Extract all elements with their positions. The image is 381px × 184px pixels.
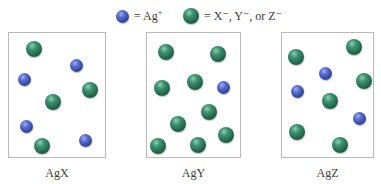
green-sphere-icon (201, 104, 217, 120)
green-sphere-icon (332, 137, 348, 153)
green-sphere-icon (158, 44, 174, 60)
green-sphere-icon (218, 127, 234, 143)
green-sphere-icon (34, 138, 50, 154)
green-sphere-icon (356, 73, 372, 89)
green-sphere-icon (26, 41, 42, 57)
blue-sphere-icon (353, 112, 366, 125)
legend: = Ag+ = X⁻, Y⁻, or Z⁻ (0, 6, 381, 26)
green-sphere-icon (288, 49, 304, 65)
green-sphere-icon (82, 82, 98, 98)
green-sphere-icon (183, 8, 199, 24)
legend-ag-text: = Ag+ (134, 8, 162, 24)
panel-agx-label: AgX (8, 166, 106, 181)
blue-sphere-icon (20, 120, 33, 133)
panel-agy-label: AgY (146, 166, 241, 181)
panel-agz-label: AgZ (281, 166, 374, 181)
green-sphere-icon (210, 46, 226, 62)
blue-sphere-icon (319, 67, 332, 80)
blue-sphere-icon (217, 81, 230, 94)
legend-ag-ion: = Ag+ (116, 6, 162, 26)
green-sphere-icon (45, 94, 61, 110)
legend-anion-text: = X⁻, Y⁻, or Z⁻ (204, 9, 282, 24)
blue-sphere-icon (116, 10, 129, 23)
blue-sphere-icon (18, 73, 31, 86)
green-sphere-icon (190, 137, 206, 153)
green-sphere-icon (322, 93, 338, 109)
green-sphere-icon (154, 80, 170, 96)
green-sphere-icon (150, 138, 166, 154)
blue-sphere-icon (79, 134, 92, 147)
blue-sphere-icon (291, 85, 304, 98)
green-sphere-icon (170, 116, 186, 132)
legend-anion: = X⁻, Y⁻, or Z⁻ (183, 6, 282, 26)
green-sphere-icon (346, 39, 362, 55)
blue-sphere-icon (70, 59, 83, 72)
green-sphere-icon (289, 124, 305, 140)
green-sphere-icon (187, 74, 203, 90)
